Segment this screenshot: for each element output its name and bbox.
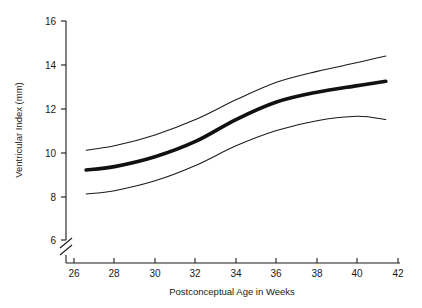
x-tick-label: 40 xyxy=(351,268,363,279)
y-tick-label: 8 xyxy=(50,192,56,203)
x-tick-label: 34 xyxy=(230,268,242,279)
y-tick-label: 16 xyxy=(45,16,57,27)
x-tick-label: 28 xyxy=(108,268,120,279)
mean-curve xyxy=(86,81,386,170)
chart-figure: 16 14 12 10 8 6 26 28 30 32 34 36 xyxy=(0,0,422,308)
chart-canvas: 16 14 12 10 8 6 26 28 30 32 34 36 xyxy=(0,0,422,308)
lower-band-curve xyxy=(86,116,386,194)
data-curves xyxy=(86,56,386,194)
upper-band-curve xyxy=(86,56,386,150)
y-tick-label: 12 xyxy=(45,104,57,115)
x-tick-label: 42 xyxy=(392,268,404,279)
y-axis-title: Ventricular Index (mm) xyxy=(13,82,24,178)
x-axis-title: Postconceptual Age in Weeks xyxy=(169,286,295,297)
y-tick-label: 14 xyxy=(45,60,57,71)
x-tick-label: 38 xyxy=(311,268,323,279)
x-tick-marks xyxy=(74,258,398,263)
y-tick-marks xyxy=(61,21,66,240)
x-tick-label: 30 xyxy=(149,268,161,279)
x-tick-label: 26 xyxy=(68,268,80,279)
x-tick-label: 32 xyxy=(189,268,201,279)
y-tick-label: 10 xyxy=(45,148,57,159)
y-tick-label: 6 xyxy=(50,235,56,246)
x-tick-label: 36 xyxy=(270,268,282,279)
x-tick-labels: 26 28 30 32 34 36 38 40 42 xyxy=(68,268,404,279)
y-tick-labels: 16 14 12 10 8 6 xyxy=(45,16,57,246)
